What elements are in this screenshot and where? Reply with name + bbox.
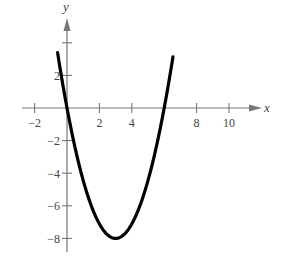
x-axis-label: x: [263, 100, 270, 115]
x-tick-label: 10: [223, 116, 235, 130]
x-tick-label: 8: [194, 116, 200, 130]
y-tick-label: −2: [47, 134, 60, 148]
y-tick-label: −6: [47, 199, 60, 213]
parabola-curve: [58, 53, 173, 239]
x-tick-label: 2: [96, 116, 102, 130]
y-axis-label: y: [61, 0, 69, 14]
tick-labels: −2248102−2−4−6−8: [28, 69, 235, 246]
y-tick-label: −4: [47, 167, 60, 181]
x-axis-arrow-icon: [249, 105, 262, 112]
ticks: [35, 43, 229, 239]
x-tick-label: 4: [129, 116, 135, 130]
y-tick-label: −8: [47, 232, 60, 246]
x-tick-label: −2: [28, 116, 41, 130]
y-axis-arrow-icon: [64, 18, 71, 31]
parabola-chart: −2248102−2−4−6−8 x y: [0, 0, 283, 272]
